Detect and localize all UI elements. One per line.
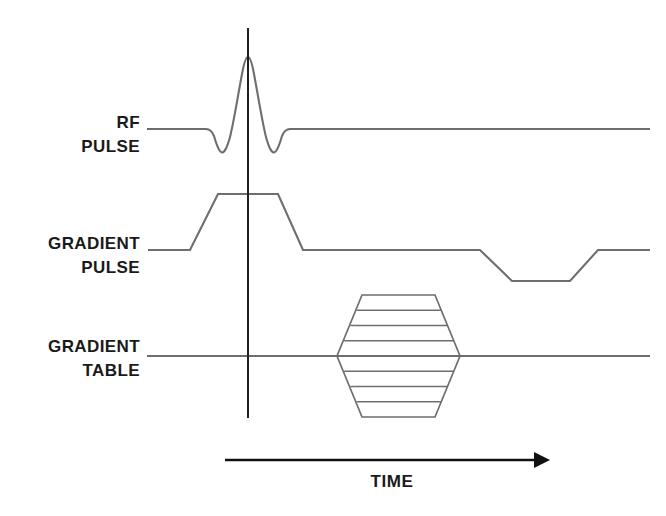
- gradient-pulse-trace-group: [148, 194, 650, 281]
- gradient-pulse-label-line1: GRADIENT: [48, 234, 140, 253]
- pulse-sequence-diagram: RF PULSE GRADIENT PULSE GRADIENT TABLE: [0, 0, 666, 516]
- row-labels: RF PULSE GRADIENT PULSE GRADIENT TABLE: [48, 113, 140, 380]
- time-axis-label: TIME: [370, 472, 413, 491]
- pulse-sequence-svg: RF PULSE GRADIENT PULSE GRADIENT TABLE: [0, 0, 666, 516]
- gradient-pulse-label-line2: PULSE: [81, 258, 140, 277]
- rf-pulse-trace: [147, 57, 650, 152]
- rf-pulse-label-line2: PULSE: [81, 137, 140, 156]
- gradient-table-label-line1: GRADIENT: [48, 337, 140, 356]
- rf-pulse-label-line1: RF: [117, 113, 140, 132]
- time-axis-group: TIME: [225, 452, 550, 491]
- time-axis-arrowhead: [534, 452, 550, 468]
- rf-pulse-trace-group: [147, 57, 650, 152]
- gradient-pulse-trace: [148, 194, 650, 281]
- gradient-table-label-line2: TABLE: [83, 361, 140, 380]
